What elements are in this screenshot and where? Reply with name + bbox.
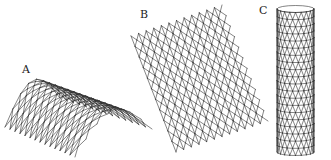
arch-mesh-a xyxy=(5,79,152,157)
sheet-mesh-b xyxy=(131,5,268,152)
panel-label-a: A xyxy=(22,64,30,75)
panel-label-c: C xyxy=(259,5,267,16)
mesh-figure: A B C xyxy=(0,0,331,160)
cylinder-mesh-c xyxy=(277,6,314,156)
mesh-canvas xyxy=(0,0,331,160)
panel-label-b: B xyxy=(140,9,148,20)
